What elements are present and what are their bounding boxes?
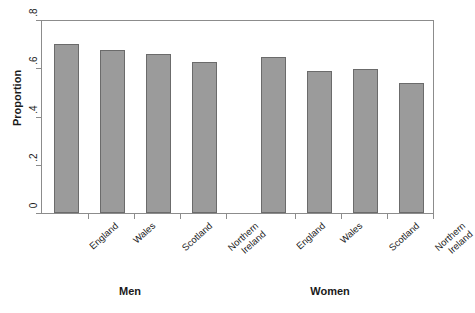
x-category-label: NorthernIreland: [432, 220, 474, 261]
group-label-women: Women: [290, 285, 370, 297]
y-tick-label-wrap: .2: [33, 165, 34, 166]
group-label-men: Men: [90, 285, 170, 297]
x-tick: [433, 213, 434, 219]
plot-frame-right: [433, 20, 434, 213]
plot-frame-top: [41, 20, 434, 21]
bar: [192, 62, 217, 213]
y-tick-label: 0: [28, 197, 39, 215]
y-tick-label: .4: [28, 100, 39, 118]
x-category-label: England: [294, 220, 327, 252]
y-tick-label: .6: [28, 52, 39, 70]
y-axis-title: Proportion: [11, 58, 23, 138]
y-tick-label-wrap: .6: [33, 68, 34, 69]
x-category-label: Scotland: [179, 220, 214, 253]
y-tick-label-wrap: .8: [33, 20, 34, 21]
bar: [100, 50, 125, 213]
bar: [353, 69, 378, 213]
x-tick: [88, 213, 89, 219]
x-category-label: Wales: [131, 220, 158, 246]
x-category-label: NorthernIreland: [225, 220, 267, 261]
y-tick-label-wrap: .4: [33, 117, 34, 118]
x-tick: [295, 213, 296, 219]
y-tick-label: .8: [28, 4, 39, 22]
bar: [146, 54, 171, 213]
x-category-label: Scotland: [386, 220, 421, 253]
bar: [399, 83, 424, 213]
x-tick: [134, 213, 135, 219]
y-axis-line: [41, 20, 42, 214]
y-tick-label-wrap: 0: [33, 213, 34, 214]
x-category-label: Wales: [338, 220, 365, 246]
x-category-label: England: [87, 220, 120, 252]
x-axis-line: [41, 213, 434, 214]
plot-area: 0.2.4.6.8: [41, 20, 434, 213]
x-tick: [180, 213, 181, 219]
bar: [307, 71, 332, 213]
bar: [261, 57, 286, 213]
x-tick: [226, 213, 227, 219]
y-tick-label: .2: [28, 148, 39, 166]
x-tick: [387, 213, 388, 219]
x-tick: [341, 213, 342, 219]
bar: [54, 44, 79, 213]
